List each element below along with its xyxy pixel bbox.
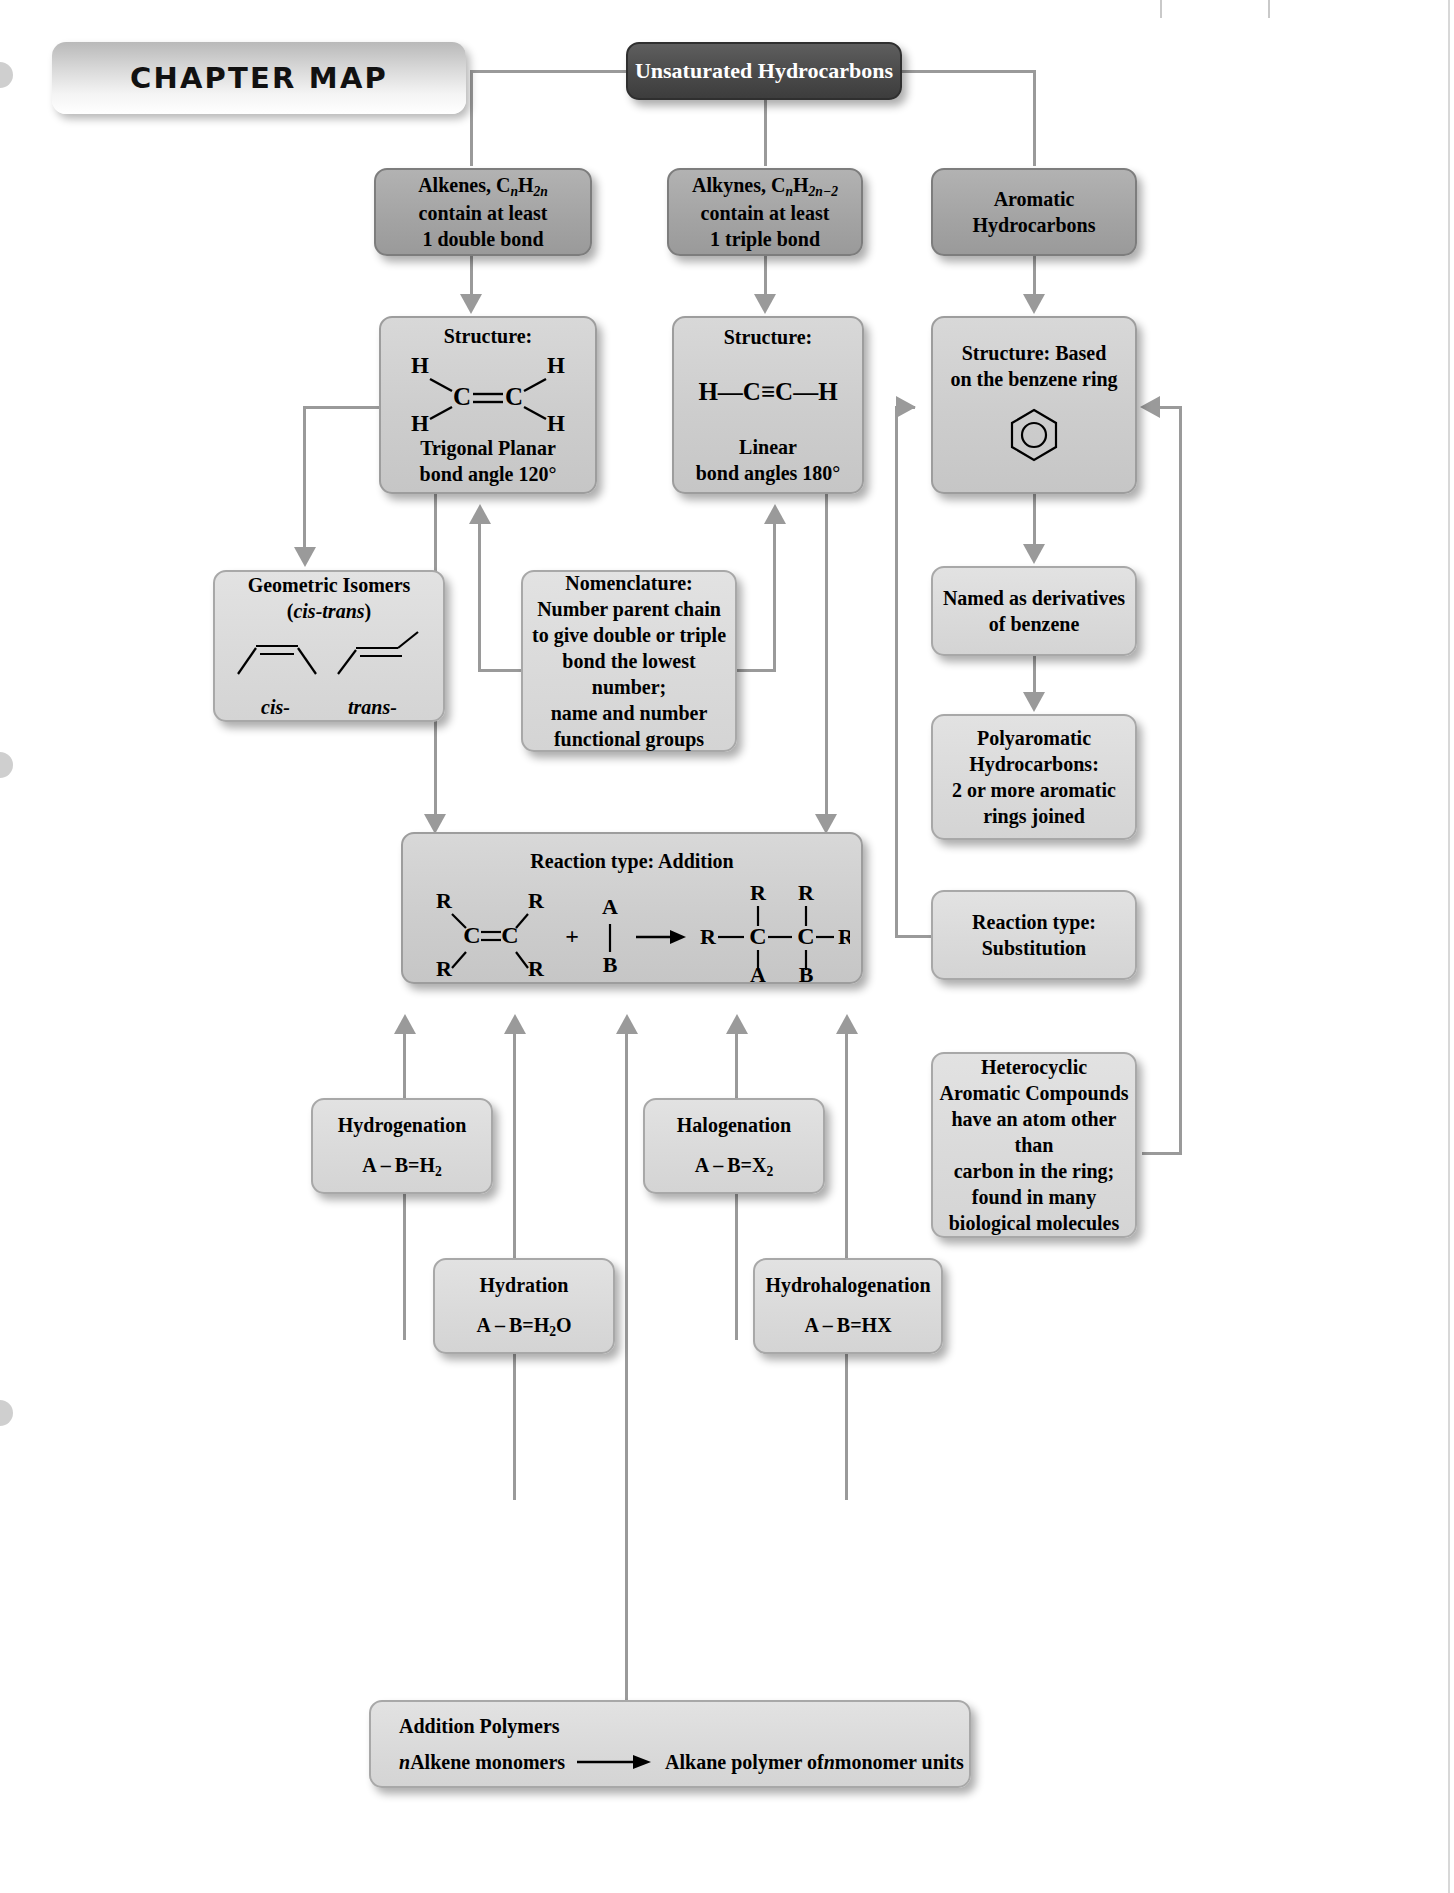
- node-nomenclature[interactable]: Nomenclature: Number parent chain to giv…: [521, 570, 737, 752]
- svg-text:R: R: [528, 888, 545, 913]
- node-addition-polymers[interactable]: Addition Polymers n Alkene monomers Alka…: [369, 1700, 971, 1788]
- node-aromatic-hydrocarbons[interactable]: Aromatic Hydrocarbons: [931, 168, 1137, 256]
- arrow-down-alkene-structure: [460, 294, 482, 314]
- polymers-eq-part1: Alkene monomers: [410, 1749, 565, 1775]
- node-aromatic-structure[interactable]: Structure: Based on the benzene ring: [931, 316, 1137, 494]
- connector-root-left-down: [470, 70, 473, 166]
- node-alkenes[interactable]: Alkenes, CnH2n contain at least 1 double…: [374, 168, 592, 256]
- alkene-structure-geometry: Trigonal Planar: [420, 435, 556, 461]
- node-alkyne-structure[interactable]: Structure: H—C≡C—H Linear bond angles 18…: [672, 316, 864, 494]
- polyaromatic-line3: 2 or more aromatic: [952, 777, 1116, 803]
- alkenes-formula-h: H: [518, 174, 534, 196]
- page-edge-dot: [0, 62, 13, 88]
- svg-text:R: R: [436, 956, 453, 981]
- polymers-eq-part2: Alkane polymer of: [665, 1749, 824, 1775]
- node-geometric-isomers[interactable]: Geometric Isomers (cis-trans) cis- trans…: [213, 570, 445, 722]
- node-hydration[interactable]: Hydration A – B=H2O: [433, 1258, 615, 1354]
- nomenclature-line3: to give double or triple: [532, 622, 726, 648]
- nomenclature-line5: name and number: [551, 700, 708, 726]
- heterocyclic-line4: carbon in the ring;: [954, 1158, 1115, 1184]
- svg-text:C: C: [501, 922, 518, 948]
- node-alkene-structure[interactable]: Structure: H H H H C C Trigonal Planar b…: [379, 316, 597, 494]
- geometric-isomers-drawings: [226, 630, 432, 698]
- alkene-structure-angle: bond angle 120°: [420, 461, 557, 487]
- geometric-isomers-labels: cis- trans-: [261, 694, 397, 720]
- hydrogenation-title: Hydrogenation: [338, 1112, 467, 1138]
- addition-polymers-equation: n Alkene monomers Alkane polymer of n mo…: [399, 1749, 964, 1775]
- svg-text:C: C: [797, 923, 814, 949]
- alkene-structure-drawing: H H H H C C: [400, 353, 576, 435]
- svg-text:H: H: [547, 411, 565, 435]
- polymers-eq-n2: n: [824, 1749, 835, 1775]
- page-top-tick: [1160, 0, 1162, 18]
- halogenation-eq-prefix: A – B=X: [695, 1154, 767, 1176]
- node-halogenation[interactable]: Halogenation A – B=X2: [643, 1098, 825, 1194]
- nomenclature-line1: Nomenclature:: [565, 570, 692, 596]
- halogenation-eq-sub: 2: [766, 1163, 773, 1178]
- svg-text:R: R: [436, 888, 453, 913]
- alkenes-formula-sub: 2n: [534, 183, 548, 198]
- arrow-down-aromatic-structure: [1023, 294, 1045, 314]
- node-polyaromatic[interactable]: Polyaromatic Hydrocarbons: 2 or more aro…: [931, 714, 1137, 840]
- chapter-map-banner: CHAPTER MAP: [52, 42, 466, 114]
- svg-text:H: H: [547, 353, 565, 378]
- benzene-ring-icon: [1006, 406, 1062, 470]
- node-heterocyclic[interactable]: Heterocyclic Aromatic Compounds have an …: [931, 1052, 1137, 1238]
- svg-text:A: A: [602, 894, 618, 919]
- arrow-left-aromatic-structure-heterocyclic: [1140, 396, 1160, 418]
- arrow-down-addition-from-alkene: [424, 814, 446, 834]
- arrow-up-addition-hydration: [504, 1014, 526, 1034]
- hydrohalogenation-eq-prefix: A – B=HX: [804, 1314, 891, 1336]
- svg-text:R: R: [750, 880, 767, 905]
- svg-text:B: B: [603, 952, 618, 977]
- svg-text:H: H: [411, 353, 429, 378]
- node-reaction-addition[interactable]: Reaction type: Addition R R R R C C + A: [401, 832, 863, 984]
- connector-heterocyclic-arrow-stub: [1160, 406, 1180, 409]
- alkyne-structure-formula: H—C≡C—H: [698, 376, 837, 409]
- alkynes-formula-n: n: [785, 183, 793, 198]
- hydrohalogenation-equation: A – B=HX: [804, 1312, 891, 1340]
- arrow-down-addition-from-alkyne: [815, 814, 837, 834]
- addition-equation: R R R R C C + A B: [414, 880, 850, 990]
- polymers-eq-n1: n: [399, 1749, 410, 1775]
- node-benzene-derivatives[interactable]: Named as derivatives of benzene: [931, 566, 1137, 656]
- node-hydrogenation[interactable]: Hydrogenation A – B=H2: [311, 1098, 493, 1194]
- connector-aromatic-to-derivatives: [1033, 494, 1036, 546]
- heterocyclic-line5: found in many: [972, 1184, 1097, 1210]
- page-edge-dot: [0, 752, 13, 778]
- connector-heterocyclic-to-aromatic-h: [1142, 1152, 1182, 1155]
- heterocyclic-line1: Heterocyclic: [981, 1054, 1087, 1080]
- alkynes-formula-prefix: Alkynes, C: [692, 174, 785, 196]
- connector-nomenclature-to-alkene-h: [478, 669, 524, 672]
- geometric-isomers-subtitle: (cis-trans): [287, 598, 371, 624]
- addition-title: Reaction type: Addition: [530, 848, 733, 874]
- halogenation-title: Halogenation: [677, 1112, 791, 1138]
- svg-text:B: B: [799, 962, 814, 984]
- connector-nomenclature-to-alkene-v: [478, 524, 481, 670]
- node-alkenes-line3: 1 double bond: [422, 226, 543, 252]
- addition-equation-svg: R R R R C C + A B: [414, 880, 850, 984]
- arrow-down-geometric-isomers: [294, 547, 316, 567]
- nomenclature-line4: bond the lowest number;: [523, 648, 735, 700]
- connector-root-center-down: [764, 100, 767, 166]
- alkyne-structure-title: Structure:: [724, 324, 813, 350]
- node-hydrohalogenation[interactable]: Hydrohalogenation A – B=HX: [753, 1258, 943, 1354]
- connector-alkynes-to-structure: [764, 254, 767, 296]
- node-unsaturated-hydrocarbons[interactable]: Unsaturated Hydrocarbons: [626, 42, 902, 100]
- hydrohalogenation-title: Hydrohalogenation: [765, 1272, 930, 1298]
- node-substitution[interactable]: Reaction type: Substitution: [931, 890, 1137, 980]
- label-cis: cis-: [261, 694, 290, 720]
- connector-aromatic-to-structure: [1033, 254, 1036, 296]
- benzene-derivatives-line1: Named as derivatives: [943, 585, 1125, 611]
- arrow-up-addition-hydrogenation: [394, 1014, 416, 1034]
- alkene-structure-title: Structure:: [444, 323, 533, 349]
- hydration-eq-sub: 2: [549, 1323, 556, 1338]
- hydration-eq-prefix: A – B=H: [476, 1314, 549, 1336]
- alkyne-structure-geometry: Linear: [739, 434, 797, 460]
- node-aromatic-line2: Hydrocarbons: [973, 212, 1096, 238]
- node-alkynes[interactable]: Alkynes, CnH2n−2 contain at least 1 trip…: [667, 168, 863, 256]
- svg-text:H: H: [411, 411, 429, 435]
- polymer-reaction-arrow-icon: [577, 1754, 653, 1770]
- page-right-rule: [1448, 0, 1450, 1893]
- polymers-eq-part3: monomer units: [835, 1749, 964, 1775]
